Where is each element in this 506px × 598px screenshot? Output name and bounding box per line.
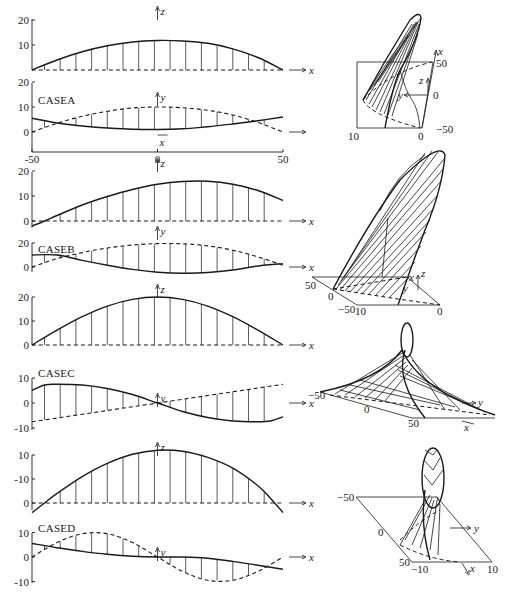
solid-curve [32,181,283,226]
tick-10: 10 [487,563,499,575]
panel-case-d-y: 100-10CASEDyx [14,522,314,588]
x-tick-label: -50 [25,153,40,165]
y-tick-label: 0 [24,397,30,409]
y-axis-label: y [477,396,483,408]
y-tick-label: 0 [24,551,30,563]
dashed-curve [32,384,283,422]
y-tick-label: -10 [14,576,29,588]
panel-case-a-y: 20100-50050CASEAyx [18,76,306,165]
x-axis-label: x [469,562,475,574]
x-axis-label: x [437,45,443,57]
tick-neg10: −10 [411,563,429,575]
surface-loop [422,448,444,508]
y-tick-label: 20 [18,76,30,88]
x-axis-label: x [463,421,469,433]
y-axis-arrow [450,526,471,530]
tick-0: 0 [433,89,439,101]
y-tick-label: 10 [18,315,30,327]
surface-outline [333,151,445,305]
surface-rulings [336,151,445,298]
x-axis-label: x [308,551,314,563]
z-axis-label: z [420,267,426,279]
panel-case-c-z: 20100zx [18,283,314,351]
tick-neg50: −50 [308,389,326,401]
panel-case-a-3d: x y z 50 0 −50 10 0 [348,14,454,142]
solid-curve [32,255,283,274]
y-tick-label: -10 [14,422,29,434]
tick-0: 0 [328,290,334,302]
panel-case-d-3d: y x −50 0 50 −10 10 [337,448,499,575]
surface-rulings [400,450,443,555]
surface-inner-curve [400,70,420,128]
y-tick-label: 10 [18,372,30,384]
x-axis-label: x [308,497,314,509]
y-axis-label: y [473,522,479,534]
y-tick-label: 10 [18,527,30,539]
tick-b0: 0 [418,130,424,142]
x-axis-arrow [462,563,469,575]
y-tick-label: 20 [18,291,30,303]
y-axis-label: y [402,282,408,294]
panel-case-b-3d: 50 0 −50 10 0 x y z [305,151,445,317]
tick-50: 50 [436,57,448,69]
solid-curve [32,40,283,70]
case-label: CASED [38,522,76,534]
y-tick-label: 10 [18,190,30,202]
y-tick-label: 0 [24,215,30,227]
tick-50: 50 [399,556,411,568]
tick-0: 0 [364,403,370,415]
case-label: CASEA [38,94,76,106]
x-axis-label: x [308,64,314,76]
tick-b0: 0 [437,305,443,317]
y-tick-label: 20 [18,165,30,177]
y-tick-label: -10 [14,473,29,485]
tick-neg50: −50 [337,491,355,503]
case-label: CASEB [38,243,75,255]
panel-case-b-z: 20100zx [18,157,314,228]
z-axis-label: z [160,441,166,453]
y-tick-label: 0 [24,126,30,138]
z-axis-label: z [160,283,166,295]
tick-10: 10 [355,305,367,317]
tick-10: 10 [348,130,360,142]
x-axis-label: x [308,261,314,273]
z-axis-label: z [418,74,424,86]
y-tick-label: 20 [18,14,30,26]
y-tick-label: 10 [18,101,30,113]
x-axis-label: x [159,136,165,148]
surface-outline [320,350,495,415]
x-axis-label: x [308,339,314,351]
solid-curve [32,297,283,345]
dashed-curve [32,533,283,582]
case-label: CASEC [38,367,75,379]
dashed-curve [32,107,283,132]
z-axis-label: z [160,157,166,169]
y-axis-label: y [160,91,166,103]
tick-neg50: −50 [436,123,454,135]
panel-case-d-z: 10-100zx [14,441,314,513]
x-axis-label: x [408,271,414,283]
x-tick-label: 50 [278,153,290,165]
panel-case-c-y: 100-10CASECyx [14,367,314,434]
y-axis-label: y [160,546,166,558]
y-tick-label: 20 [18,237,30,249]
tick-0: 0 [378,526,384,538]
tick-50: 50 [408,417,420,429]
y-tick-label: 0 [24,339,30,351]
y-axis-label: y [397,89,403,101]
panel-case-c-3d: y x −50 0 50 [308,323,495,433]
panel-case-a-z: 2010zx [18,5,314,76]
tick-neg50: −50 [338,303,356,315]
y-tick-label: 10 [18,39,30,51]
y-tick-label: 10 [18,449,30,461]
y-axis-label: y [160,225,166,237]
panel-case-b-y: 200CASEByx [18,225,314,273]
z-axis-label: z [160,5,166,17]
tick-50: 50 [305,279,317,291]
figure: 2010zx 20100-50050CASEAyx 20100zx 200CAS… [0,0,506,598]
y-tick-label: 0 [24,261,30,273]
x-axis-label: x [308,215,314,227]
y-tick-label: 0 [24,497,30,509]
